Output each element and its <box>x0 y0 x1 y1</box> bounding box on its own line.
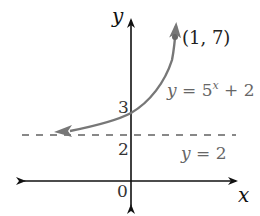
tick-label-2: 2 <box>118 141 129 158</box>
asymptote-eq-y: y <box>181 143 191 163</box>
curve-eq-base: = 5 <box>177 80 213 100</box>
asymptote-label: y = 2 <box>181 145 226 162</box>
y-axis-label: y <box>112 6 123 26</box>
curve-equation-label: y = 5x + 2 <box>167 82 255 99</box>
asymptote-eq-rest: = 2 <box>191 143 227 163</box>
curve-eq-suffix: + 2 <box>219 80 255 100</box>
tick-label-3: 3 <box>118 99 129 116</box>
point-marker <box>172 34 178 40</box>
origin-label: 0 <box>117 183 128 200</box>
x-axis-label: x <box>238 185 249 205</box>
curve-eq-y: y <box>167 80 177 100</box>
point-label: (1, 7) <box>182 29 230 47</box>
